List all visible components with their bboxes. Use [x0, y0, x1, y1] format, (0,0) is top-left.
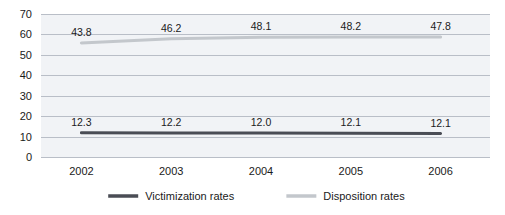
x-axis-tick-label: 2002 [69, 165, 93, 177]
x-axis-tick-label: 2005 [339, 165, 363, 177]
data-point-label: 12.3 [71, 116, 92, 128]
x-axis-tick-label: 2006 [428, 165, 452, 177]
data-point-label: 12.1 [341, 116, 362, 128]
y-axis-tick-label: 30 [20, 90, 32, 102]
series-line [81, 133, 440, 134]
data-point-label: 48.1 [251, 20, 272, 32]
line-chart: 706050403020100 20022003200420052006 12.… [0, 0, 505, 215]
legend-item[interactable]: Victimization rates [108, 190, 235, 202]
data-point-label: 12.2 [161, 116, 182, 128]
data-point-label: 48.2 [341, 20, 362, 32]
y-axis-tick-label: 70 [20, 8, 32, 20]
x-axis-tick-label: 2004 [249, 165, 273, 177]
y-axis-tick-label: 40 [20, 69, 32, 81]
y-axis-tick-label: 50 [20, 49, 32, 61]
x-axis-tick-labels: 20022003200420052006 [69, 165, 453, 177]
legend-item-label: Disposition rates [323, 190, 405, 202]
y-axis-tick-label: 20 [20, 110, 32, 122]
data-point-label: 46.2 [161, 22, 182, 34]
data-point-label: 12.0 [251, 116, 272, 128]
data-point-label: 43.8 [71, 26, 92, 38]
data-point-label: 12.1 [430, 117, 451, 129]
data-point-label: 47.8 [430, 20, 451, 32]
legend-item[interactable]: Disposition rates [286, 190, 405, 202]
x-axis-tick-label: 2003 [159, 165, 183, 177]
y-axis-tick-labels: 706050403020100 [20, 8, 32, 163]
chart-legend: Victimization ratesDisposition rates [108, 190, 405, 202]
y-axis-tick-label: 60 [20, 28, 32, 40]
y-axis-tick-label: 10 [20, 131, 32, 143]
y-axis-tick-label: 0 [26, 151, 32, 163]
legend-item-label: Victimization rates [145, 190, 235, 202]
chart-container: 706050403020100 20022003200420052006 12.… [0, 0, 505, 215]
